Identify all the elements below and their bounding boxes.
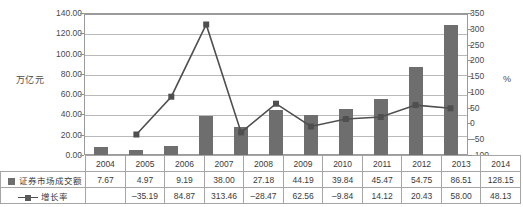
y-tick-mark-right xyxy=(468,76,472,77)
y-tick-mark-right xyxy=(468,29,472,30)
y-axis-right-title: % xyxy=(503,74,511,84)
table-row: 增长率–35.1984.87313.46–28.4762.56–9.8414.1… xyxy=(1,188,521,204)
table-cell: 48.13 xyxy=(481,188,521,204)
y-tick-right: 250 xyxy=(470,41,500,49)
table-cell: 58.00 xyxy=(441,188,481,204)
y-tick-right: 350 xyxy=(470,9,500,17)
y-tick-mark-right xyxy=(468,108,472,109)
y-tick-left: 60.00 xyxy=(36,90,82,98)
y-tick-mark-left xyxy=(80,155,84,156)
line-marker xyxy=(273,101,279,107)
table-cell: 128.15 xyxy=(481,172,521,188)
table-cell: 313.46 xyxy=(204,188,244,204)
table-year-header: 2013 xyxy=(441,156,481,172)
y-tick-mark-left xyxy=(80,54,84,55)
table-cell: 38.00 xyxy=(204,172,244,188)
y-tick-right: 200 xyxy=(470,56,500,64)
legend-item-growth-rate: 增长率 xyxy=(1,188,86,204)
y-tick-mark-left xyxy=(80,94,84,95)
line-series-layer xyxy=(84,13,468,155)
y-tick-mark-right xyxy=(468,60,472,61)
table-cell: –9.84 xyxy=(323,188,363,204)
table-corner-cell xyxy=(1,156,86,172)
line-marker xyxy=(343,116,349,122)
line-path xyxy=(136,25,450,135)
legend-line-icon xyxy=(18,194,38,201)
table-cell: 7.67 xyxy=(86,172,126,188)
y-tick-mark-left xyxy=(80,13,84,14)
table-year-header: 2008 xyxy=(244,156,284,172)
line-marker xyxy=(203,22,209,28)
table-row: 证券市场成交额7.674.979.1938.0027.1844.1939.844… xyxy=(1,172,521,188)
table-cell: –35.19 xyxy=(125,188,165,204)
y-tick-right: 150 xyxy=(470,72,500,80)
table-year-header: 2009 xyxy=(283,156,323,172)
y-axis-left-ticks: 140.00120.00100.0080.0060.0040.0020.000.… xyxy=(32,0,82,160)
legend-label: 增长率 xyxy=(41,192,68,202)
line-marker xyxy=(378,114,384,120)
table-cell: 14.12 xyxy=(362,188,402,204)
table-cell: 84.87 xyxy=(165,188,205,204)
table-cell: 20.43 xyxy=(402,188,442,204)
y-tick-right: 50 xyxy=(470,104,500,112)
legend-label: 证券市场成交额 xyxy=(19,176,82,186)
table-cell: 62.56 xyxy=(283,188,323,204)
table-cell: 44.19 xyxy=(283,172,323,188)
y-tick-left: 20.00 xyxy=(36,131,82,139)
table-header-row: 2004200520062007200820092010201120122013… xyxy=(1,156,521,172)
growth-rate-line xyxy=(84,13,468,155)
table-year-header: 2005 xyxy=(125,156,165,172)
table-cell: 39.84 xyxy=(323,172,363,188)
y-tick-mark-left xyxy=(80,114,84,115)
line-marker xyxy=(308,124,314,130)
table-year-header: 2012 xyxy=(402,156,442,172)
y-tick-mark-right xyxy=(468,92,472,93)
y-tick-mark-right xyxy=(468,139,472,140)
y-tick-mark-left xyxy=(80,74,84,75)
y-axis-right-ticks: 350300250200150100500–50–100 xyxy=(470,0,522,160)
y-tick-right: 100 xyxy=(470,88,500,96)
chart-container: 万亿元 140.00120.00100.0080.0060.0040.0020.… xyxy=(0,0,523,207)
y-tick-left: 140.00 xyxy=(36,9,82,17)
table-year-header: 2004 xyxy=(86,156,126,172)
y-tick-mark-right xyxy=(468,13,472,14)
y-tick-mark-right xyxy=(468,45,472,46)
y-tick-left: 100.00 xyxy=(36,50,82,58)
table-cell: 86.51 xyxy=(441,172,481,188)
table-cell: 27.18 xyxy=(244,172,284,188)
table-year-header: 2010 xyxy=(323,156,363,172)
table-cell: 45.47 xyxy=(362,172,402,188)
y-tick-right: 300 xyxy=(470,25,500,33)
legend-item-turnover: 证券市场成交额 xyxy=(1,172,86,188)
table-cell: –28.47 xyxy=(244,188,284,204)
legend-square-icon xyxy=(8,178,15,185)
line-marker xyxy=(448,105,454,111)
y-tick-left: 120.00 xyxy=(36,29,82,37)
table-year-header: 2007 xyxy=(204,156,244,172)
data-table: 2004200520062007200820092010201120122013… xyxy=(0,155,521,204)
table-year-header: 2011 xyxy=(362,156,402,172)
line-marker xyxy=(168,94,174,100)
y-tick-right: –50 xyxy=(470,135,500,143)
y-tick-left: 40.00 xyxy=(36,110,82,118)
y-tick-mark-left xyxy=(80,135,84,136)
y-tick-left: 80.00 xyxy=(36,70,82,78)
line-marker xyxy=(238,129,244,135)
table-cell: 9.19 xyxy=(165,172,205,188)
table-cell: 4.97 xyxy=(125,172,165,188)
table-cell: 54.75 xyxy=(402,172,442,188)
table-cell xyxy=(86,188,126,204)
y-tick-mark-right xyxy=(468,123,472,124)
y-tick-right: 0 xyxy=(470,119,500,127)
line-marker xyxy=(133,132,139,138)
table-year-header: 2006 xyxy=(165,156,205,172)
line-marker xyxy=(413,102,419,108)
y-tick-mark-left xyxy=(80,33,84,34)
y-tick-mark-right xyxy=(468,155,472,156)
table-year-header: 2014 xyxy=(481,156,521,172)
